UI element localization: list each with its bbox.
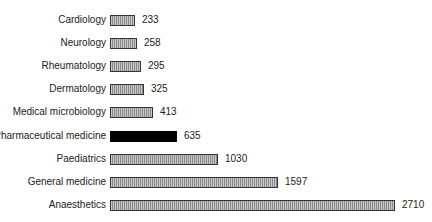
category-label: Medical microbiology	[13, 106, 106, 117]
bar	[110, 131, 177, 142]
value-label: 1597	[285, 176, 307, 187]
category-label: General medicine	[28, 176, 106, 187]
category-label: Dermatology	[49, 83, 106, 94]
value-label: 325	[151, 83, 168, 94]
category-label: Rheumatology	[42, 60, 106, 71]
bar	[110, 84, 144, 95]
bar-row: Neurology258	[0, 38, 432, 50]
bar-row: Medical microbiology413	[0, 107, 432, 119]
bar	[110, 61, 141, 72]
bar-row: Paediatrics1030	[0, 154, 432, 166]
bar-row: Anaesthetics2710	[0, 200, 432, 212]
bar-row: Rheumatology295	[0, 61, 432, 73]
bar-row: General medicine1597	[0, 177, 432, 189]
category-label: Neurology	[60, 37, 106, 48]
category-label: Cardiology	[58, 14, 106, 25]
category-label: Paediatrics	[57, 153, 106, 164]
bar	[110, 107, 153, 118]
value-label: 2710	[402, 199, 424, 210]
bar	[110, 15, 135, 26]
bar-row: Cardiology233	[0, 15, 432, 27]
bar	[110, 154, 218, 165]
value-label: 413	[160, 106, 177, 117]
horizontal-bar-chart: Cardiology233Neurology258Rheumatology295…	[0, 0, 432, 222]
bar-row: Pharmaceutical medicine635	[0, 131, 432, 143]
bar	[110, 177, 278, 188]
value-label: 295	[148, 60, 165, 71]
value-label: 258	[144, 37, 161, 48]
value-label: 1030	[225, 153, 247, 164]
category-label: Pharmaceutical medicine	[0, 130, 106, 141]
category-label: Anaesthetics	[49, 199, 106, 210]
bar	[110, 200, 395, 211]
value-label: 233	[142, 14, 159, 25]
value-label: 635	[184, 130, 201, 141]
bar-row: Dermatology325	[0, 84, 432, 96]
bar	[110, 38, 137, 49]
